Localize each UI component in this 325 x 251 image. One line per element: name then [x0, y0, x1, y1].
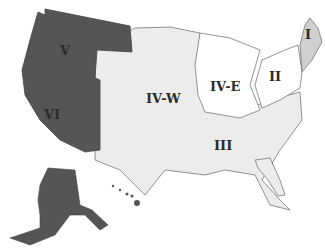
label-region-v: V [60, 44, 70, 57]
region-iv-e [195, 33, 260, 118]
label-region-vi: VI [44, 108, 60, 121]
label-region-iv-w: IV-W [146, 92, 181, 105]
label-region-iv-e: IV-E [210, 80, 241, 93]
us-regions-map [0, 0, 325, 251]
region-i [300, 18, 322, 72]
label-region-iii: III [214, 139, 232, 152]
hawaii [112, 185, 140, 206]
alaska [10, 168, 108, 245]
label-region-ii: II [269, 70, 281, 83]
label-region-i: I [305, 28, 311, 41]
